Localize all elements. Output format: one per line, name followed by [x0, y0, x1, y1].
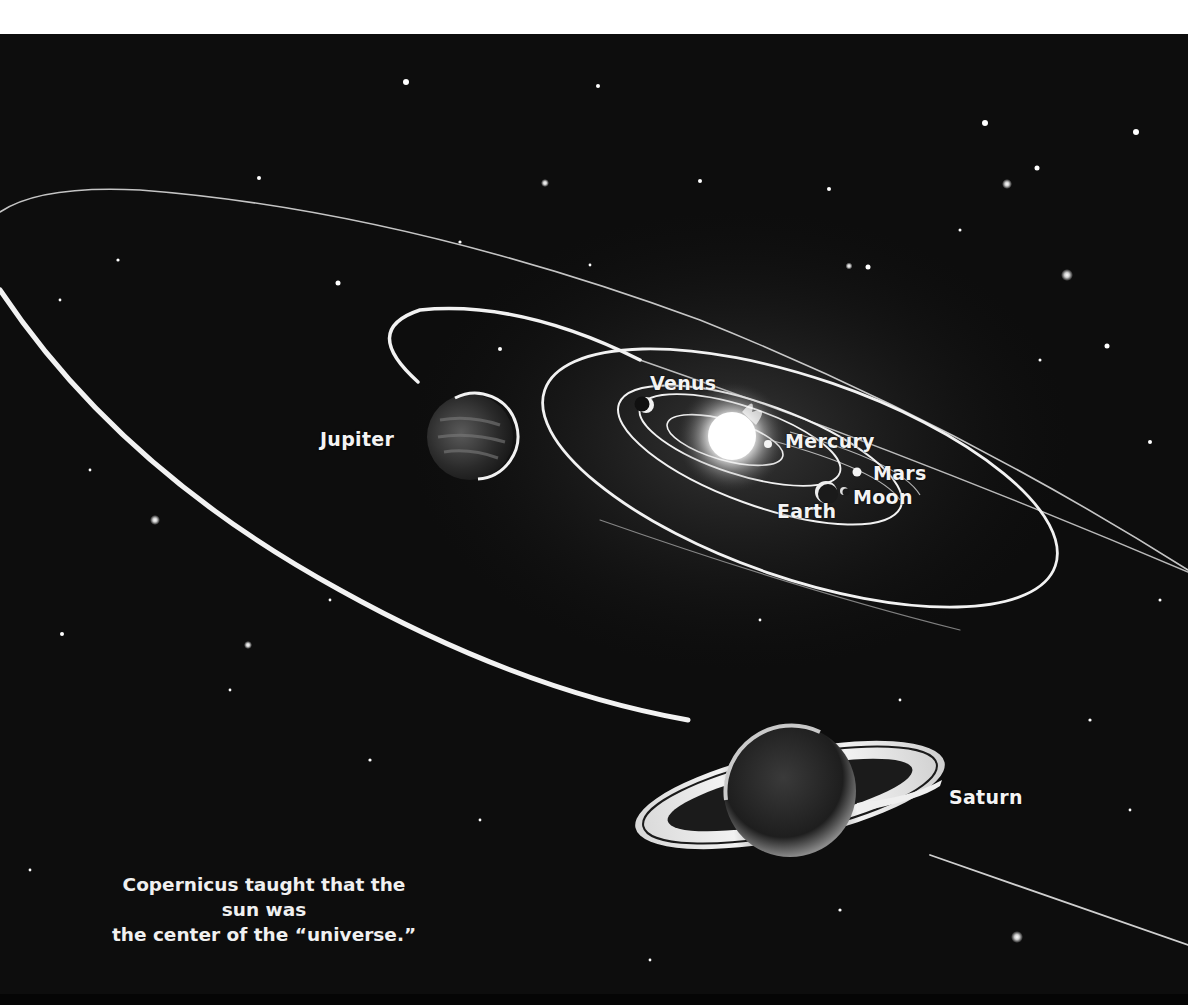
- page-margin-bottom: [0, 994, 1188, 1005]
- page-margin-top: [0, 0, 1188, 36]
- saturn-planet: [626, 719, 953, 871]
- venus-label: Venus: [650, 372, 716, 394]
- moon-label: Moon: [853, 486, 913, 508]
- sun: [677, 382, 787, 492]
- mercury-label: Mercury: [785, 430, 875, 452]
- jupiter-planet: [427, 393, 518, 480]
- caption-line-2: the center of the “universe.”: [104, 922, 424, 947]
- mars-planet: [853, 468, 862, 477]
- caption: Copernicus taught that the sun was the c…: [104, 872, 424, 947]
- earth-label: Earth: [777, 500, 836, 522]
- mercury-planet: [764, 440, 772, 448]
- saturn-label: Saturn: [949, 786, 1023, 808]
- caption-line-1: Copernicus taught that the sun was: [104, 872, 424, 922]
- starfield-plate: Venus Mercury Mars Moon Earth Jupiter Sa…: [0, 34, 1188, 996]
- solar-system-diagram: [0, 34, 1188, 996]
- jupiter-label: Jupiter: [320, 428, 394, 450]
- mars-label: Mars: [873, 462, 927, 484]
